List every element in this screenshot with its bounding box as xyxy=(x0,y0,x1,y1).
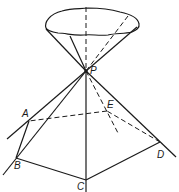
ray-P-through-A xyxy=(7,71,86,139)
edge-EA xyxy=(29,111,107,121)
label-B: B xyxy=(14,160,21,171)
label-D: D xyxy=(157,149,164,160)
edge-CD xyxy=(86,142,160,180)
cone-hidden-edge xyxy=(86,16,128,71)
label-A: A xyxy=(21,108,29,119)
edge-BC xyxy=(16,158,86,180)
diagram-canvas: P A B C D E xyxy=(0,0,179,192)
cone-inner-left-edge xyxy=(70,36,86,71)
ray-P-through-D xyxy=(86,71,176,157)
apex-point-P xyxy=(84,69,88,73)
edge-AB xyxy=(16,121,29,158)
cone-top-rim xyxy=(46,8,140,35)
label-E: E xyxy=(107,99,114,110)
label-P: P xyxy=(90,65,97,76)
label-C: C xyxy=(77,181,85,192)
